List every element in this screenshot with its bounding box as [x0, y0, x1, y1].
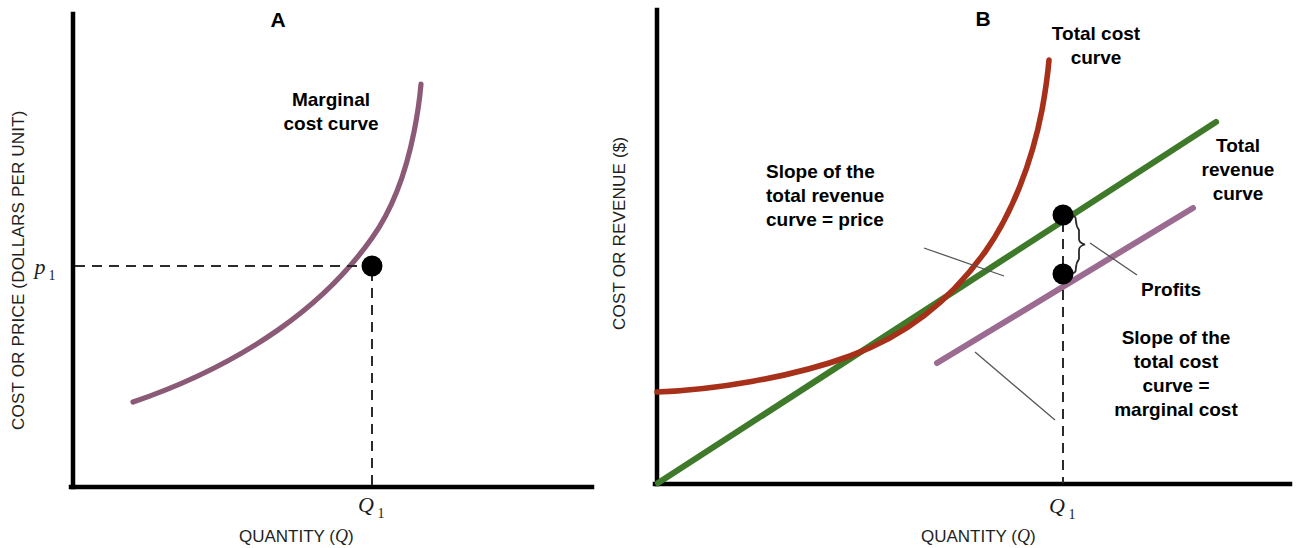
- total-revenue-point-dot: [1053, 205, 1074, 226]
- total-cost-point-dot: [1053, 264, 1074, 285]
- total-revenue-label-line2: revenue: [1202, 159, 1275, 180]
- total-revenue-label-line1: Total: [1216, 135, 1260, 156]
- slope-cost-leader-line: [975, 352, 1055, 420]
- panel-a-x-axis-label-close: ): [348, 527, 354, 546]
- total-cost-curve-label: Total cost curve: [1052, 23, 1141, 68]
- slope-total-cost-label: Slope of the total cost curve = marginal…: [1114, 327, 1238, 420]
- panel-b-quantity-subscript: 1: [1069, 507, 1076, 522]
- total-cost-label-line1: Total cost: [1052, 23, 1141, 44]
- slope-cost-line4: marginal cost: [1114, 399, 1238, 420]
- quantity-symbol: Q: [358, 492, 374, 517]
- panel-b-x-axis-label-close: ): [1030, 527, 1036, 546]
- panel-b-x-axis-label-text: QUANTITY (: [921, 527, 1017, 546]
- panel-a-price-label: p 1: [33, 254, 56, 283]
- price-subscript: 1: [49, 268, 56, 283]
- panel-a-x-axis-label-italic: Q: [335, 526, 348, 546]
- panel-b-x-axis-label: QUANTITY (Q): [921, 526, 1036, 546]
- panel-a-x-axis-label-text: QUANTITY (: [239, 527, 335, 546]
- quantity-subscript: 1: [378, 506, 385, 521]
- panel-b-quantity-label: Q 1: [1049, 493, 1075, 522]
- slope-revenue-line1: Slope of the: [766, 161, 875, 182]
- svg-text:QUANTITY (Q): QUANTITY (Q): [921, 526, 1036, 546]
- slope-total-revenue-label: Slope of the total revenue curve = price: [766, 161, 884, 230]
- slope-revenue-line3: curve = price: [766, 209, 884, 230]
- panel-b-x-axis-label-italic: Q: [1017, 526, 1030, 546]
- slope-revenue-line2: total revenue: [766, 185, 884, 206]
- price-symbol: p: [33, 254, 46, 279]
- total-revenue-curve-label: Total revenue curve: [1202, 135, 1275, 204]
- slope-revenue-leader-line: [924, 248, 1004, 276]
- figure-canvas: A COST OR PRICE (DOLLARS PER UNIT) Margi…: [0, 0, 1296, 548]
- slope-cost-line1: Slope of the: [1122, 327, 1231, 348]
- panel-a-x-axis-label: QUANTITY (Q): [239, 526, 354, 546]
- marginal-cost-curve-label: Marginal cost curve: [283, 89, 378, 134]
- panel-a: A COST OR PRICE (DOLLARS PER UNIT) Margi…: [9, 8, 592, 546]
- panel-a-quantity-label: Q 1: [358, 492, 384, 521]
- panel-a-y-axis-label: COST OR PRICE (DOLLARS PER UNIT): [9, 110, 28, 430]
- figure-root: A COST OR PRICE (DOLLARS PER UNIT) Margi…: [0, 0, 1296, 548]
- panel-b: B COST OR REVENUE ($): [610, 7, 1290, 546]
- panel-b-y-axis-label: COST OR REVENUE ($): [610, 137, 629, 330]
- slope-cost-line2: total cost: [1134, 351, 1219, 372]
- total-cost-label-line2: curve: [1071, 47, 1122, 68]
- marginal-cost-label-line1: Marginal: [292, 89, 370, 110]
- panel-a-letter: A: [270, 8, 285, 31]
- panel-b-letter: B: [975, 7, 990, 30]
- total-revenue-label-line3: curve: [1213, 183, 1264, 204]
- panel-a-equilibrium-dot: [362, 256, 383, 277]
- panel-a-axes: [71, 14, 592, 487]
- profits-brace: [1072, 216, 1085, 273]
- marginal-cost-label-line2: cost curve: [283, 113, 378, 134]
- slope-cost-line3: curve =: [1142, 375, 1209, 396]
- profits-label: Profits: [1141, 279, 1201, 300]
- svg-text:QUANTITY (Q): QUANTITY (Q): [239, 526, 354, 546]
- panel-b-quantity-symbol: Q: [1049, 493, 1065, 518]
